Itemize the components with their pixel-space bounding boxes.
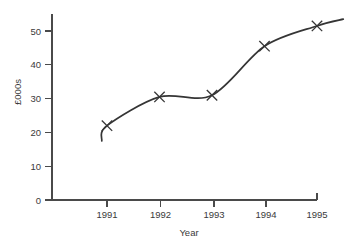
y-tick-label-50: 50 [30,26,41,37]
y-axis-ticks: 50 40 30 20 10 0 [30,26,52,206]
y-tick-label-30: 30 [30,93,41,104]
data-point-marker [312,21,322,31]
x-axis-title: Year [179,227,198,238]
data-point-marker [102,120,112,130]
y-axis-title: £000s [12,79,23,105]
y-tick-label-40: 40 [30,59,41,70]
x-tick-label-1994: 1994 [255,209,276,220]
data-point-marker [207,90,217,100]
chart-container: 50 40 30 20 10 0 1991 1992 1993 1994 199… [0,0,354,241]
data-series-line [101,19,343,141]
x-tick-label-1993: 1993 [203,209,224,220]
data-point-markers [102,21,322,131]
y-tick-label-20: 20 [30,127,41,138]
x-tick-label-1991: 1991 [96,209,117,220]
data-point-marker [259,41,269,51]
y-tick-label-0: 0 [36,195,41,206]
x-tick-label-1995: 1995 [306,209,327,220]
line-chart: 50 40 30 20 10 0 1991 1992 1993 1994 199… [0,0,354,241]
y-tick-label-10: 10 [30,161,41,172]
x-axis-ticks: 1991 1992 1993 1994 1995 [96,193,327,220]
x-tick-label-1992: 1992 [150,209,171,220]
